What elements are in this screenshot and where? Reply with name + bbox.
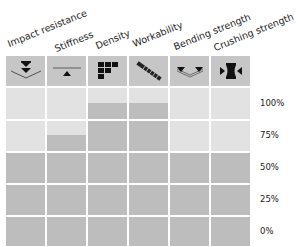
y-tick-50: 50% [260, 162, 279, 172]
bar-bending-strength [170, 88, 209, 246]
icon-row [0, 56, 298, 86]
workability-icon [129, 56, 168, 86]
bar-fill [88, 103, 127, 246]
crushing-icon [211, 56, 250, 86]
y-tick-0: 0% [260, 226, 274, 236]
gridline [0, 119, 252, 121]
bar-workability [129, 88, 168, 246]
bar-fill [129, 103, 168, 246]
bar-fill [170, 152, 209, 246]
column-headers: Impact resistance Stiffness Density Work… [0, 0, 298, 56]
bar-crushing-strength [211, 88, 250, 246]
header-density: Density [94, 27, 132, 51]
bar-grid: 100% 75% 50% 25% 0% [0, 88, 298, 246]
bar-fill [6, 152, 45, 246]
bar-density [88, 88, 127, 246]
y-tick-100: 100% [260, 98, 284, 108]
bar-fill [211, 152, 250, 246]
bar-stiffness [47, 88, 86, 246]
y-tick-75: 75% [260, 130, 279, 140]
bar-impact-resistance [6, 88, 45, 246]
header-stiffness: Stiffness [53, 29, 95, 54]
gridline [0, 183, 252, 185]
y-tick-25: 25% [260, 194, 279, 204]
impact-icon [6, 56, 45, 86]
density-icon [88, 56, 127, 86]
bending-icon [170, 56, 209, 86]
stiffness-icon [47, 56, 86, 86]
gridline [0, 151, 252, 153]
gridline [0, 215, 252, 217]
